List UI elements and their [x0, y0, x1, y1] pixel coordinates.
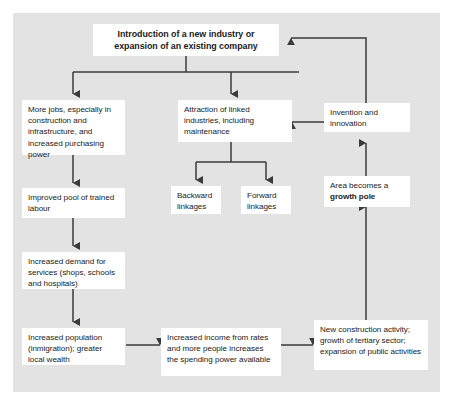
node-increased-population: Increased population (inmigration); grea…	[22, 328, 125, 365]
node-increased-income: Increased income from rates and more peo…	[161, 328, 281, 376]
node-title: Introduction of a new industry or expans…	[93, 24, 279, 56]
node-more-jobs: More jobs, especially in construction an…	[22, 100, 125, 155]
growth-pole-emphasis: growth pole	[330, 192, 375, 201]
node-improved-pool: Improved pool of trained labour	[22, 188, 125, 218]
flowchart-diagram: Introduction of a new industry or expans…	[0, 0, 452, 400]
node-invention-innovation: Invention and innovation	[324, 103, 410, 132]
node-increased-demand: Increased demand for services (shops, sc…	[22, 252, 125, 289]
node-attraction-linked-industries: Attraction of linked industries, includi…	[178, 100, 292, 142]
node-backward-linkages: Backward linkages	[171, 186, 221, 214]
node-growth-pole: Area becomes a growth pole	[324, 176, 410, 207]
node-new-construction: New construction activity; growth of ter…	[314, 320, 428, 370]
growth-pole-prefix: Area becomes a	[330, 181, 388, 190]
node-forward-linkages: Forward linkages	[241, 186, 291, 214]
